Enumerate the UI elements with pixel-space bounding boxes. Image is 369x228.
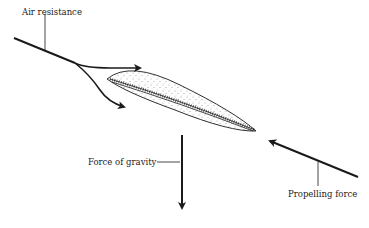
gravity-arrow xyxy=(157,135,182,208)
force-diagram: Air resistance Force of gravity Propelli… xyxy=(0,0,369,228)
air-resistance-label: Air resistance xyxy=(22,8,82,17)
gravity-label: Force of gravity xyxy=(88,158,156,167)
streamlined-body xyxy=(107,71,256,131)
propelling-label: Propelling force xyxy=(288,190,357,199)
propelling-arrow xyxy=(270,141,358,186)
air-resistance-arrow xyxy=(14,14,140,107)
